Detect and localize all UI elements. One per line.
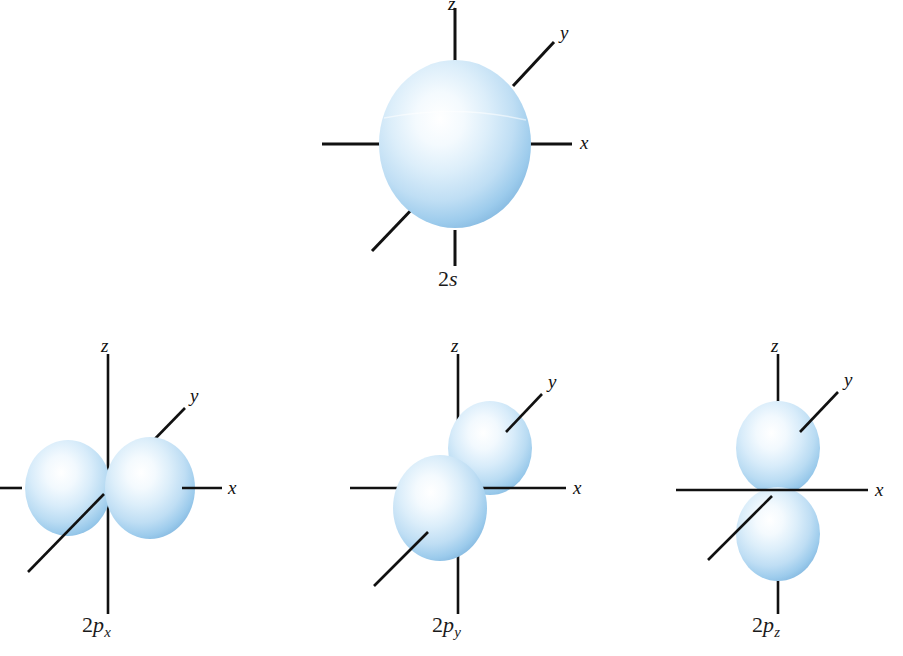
orbital-2s: z y x 2s	[300, 0, 620, 310]
orbital-lobe-bottom	[736, 487, 820, 581]
orbital-label-symbol: p	[93, 612, 104, 637]
axis-label-y: y	[190, 386, 198, 405]
axis-label-x: x	[875, 480, 883, 499]
axis-line-y-upper	[513, 42, 554, 86]
orbital-label-symbol: p	[763, 612, 774, 637]
axis-line-y-lower	[374, 532, 428, 586]
orbital-label-2px: 2px	[82, 614, 111, 640]
axis-label-x: x	[228, 478, 236, 497]
axis-label-y: y	[560, 23, 568, 42]
orbital-2px: z y x 2px	[0, 336, 260, 656]
orbital-label-number: 2	[438, 266, 449, 291]
orbital-label-subscript: x	[104, 624, 111, 640]
axis-label-y: y	[844, 370, 852, 389]
orbital-lobe-top	[736, 401, 820, 495]
orbital-lobe-front	[393, 455, 487, 561]
orbital-label-subscript: z	[774, 624, 780, 640]
orbital-2pz-graphic	[660, 336, 903, 656]
orbital-2s-graphic	[300, 0, 620, 310]
orbital-2pz: z y x 2pz	[660, 336, 903, 656]
orbital-label-symbol: s	[449, 266, 458, 291]
axis-label-z: z	[101, 336, 108, 355]
orbital-label-symbol: p	[443, 612, 454, 637]
axis-label-x: x	[580, 133, 588, 152]
axis-label-z: z	[771, 336, 778, 355]
orbital-2py: z y x 2py	[330, 336, 610, 656]
orbital-label-number: 2	[432, 612, 443, 637]
orbital-label-number: 2	[82, 612, 93, 637]
orbital-lobe-left	[25, 440, 111, 536]
orbital-label-subscript: y	[454, 624, 461, 640]
orbital-label-2s: 2s	[438, 268, 458, 290]
orbital-lobe-right	[105, 437, 195, 539]
axis-line-y-upper	[800, 392, 838, 432]
orbital-2py-graphic	[330, 336, 610, 656]
axis-label-x: x	[573, 478, 581, 497]
orbital-label-2pz: 2pz	[752, 614, 780, 640]
axis-label-z: z	[451, 336, 458, 355]
orbital-lobe-sphere	[379, 60, 531, 228]
orbital-label-2py: 2py	[432, 614, 461, 640]
axis-label-y: y	[548, 372, 556, 391]
orbital-diagram-canvas: z y x 2s z y x 2px	[0, 0, 903, 656]
orbital-label-number: 2	[752, 612, 763, 637]
axis-label-z: z	[448, 0, 455, 13]
orbital-2px-graphic	[0, 336, 260, 656]
